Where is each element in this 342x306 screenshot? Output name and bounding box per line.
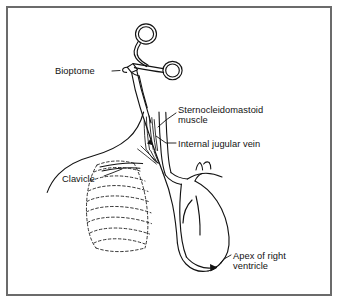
label-sternocleidomastoid-muscle: Sternocleidomastoidmuscle: [178, 105, 263, 126]
label-apex-line1: Apex of right: [233, 251, 286, 261]
bioptome-lower-ring: [163, 61, 182, 79]
great-vessels: [187, 162, 222, 181]
anatomy-illustration: [0, 0, 342, 306]
leader-internal-jugular: [156, 136, 176, 143]
label-bioptome: Bioptome: [55, 66, 95, 76]
bioptome-upper-shank: [134, 42, 148, 67]
leader-bioptome: [112, 71, 120, 72]
bioptome-hinge: [123, 64, 140, 76]
leader-sternocleidomastoid: [158, 113, 176, 127]
heart: [180, 181, 229, 268]
label-sternocleidomastoid-line1: Sternocleidomastoid: [178, 105, 263, 115]
bioptome-shaft: [132, 71, 151, 125]
figure-container: Bioptome Sternocleidomastoidmuscle Inter…: [0, 0, 342, 306]
label-internal-jugular-vein: Internal jugular vein: [178, 139, 260, 149]
label-apex-of-right-ventricle: Apex of rightventricle: [233, 251, 286, 272]
label-apex-line2: ventricle: [233, 261, 268, 271]
rib-cage: [86, 161, 151, 252]
subclavian-confluence: [165, 173, 187, 185]
label-sternocleidomastoid-line2: muscle: [178, 115, 208, 125]
label-clavicle: Clavicle: [62, 174, 95, 184]
bioptome-upper-ring: [136, 24, 157, 44]
leader-apex: [218, 255, 231, 266]
